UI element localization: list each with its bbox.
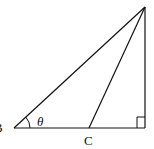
right-angle-marker <box>137 117 145 128</box>
angle-arc-theta <box>26 117 30 128</box>
hypotenuse <box>14 7 145 128</box>
triangle-diagram: B θ C <box>0 0 154 149</box>
label-b: B <box>0 120 3 135</box>
label-c: C <box>84 133 93 148</box>
segment-c-apex <box>89 7 145 128</box>
label-theta: θ <box>37 114 44 129</box>
